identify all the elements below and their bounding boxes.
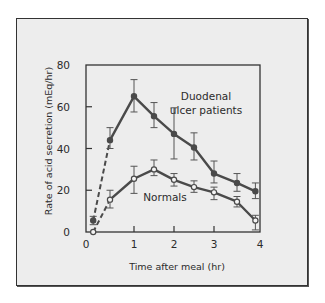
x-tick-label: 1	[131, 238, 138, 250]
y-tick-label: 20	[57, 184, 70, 196]
data-series	[90, 80, 259, 235]
open-marker	[211, 190, 216, 195]
x-tick-label: 2	[171, 238, 178, 250]
y-tick-label: 0	[63, 226, 70, 238]
y-tick-label: 80	[57, 59, 70, 71]
filled-marker	[234, 180, 239, 185]
filled-marker	[151, 114, 156, 119]
axis-ticks: 01234020406080	[57, 59, 264, 250]
open-marker	[253, 218, 258, 223]
x-tick-label: 0	[83, 238, 90, 250]
open-marker	[107, 197, 112, 202]
filled-marker	[211, 171, 216, 176]
open-marker	[131, 176, 136, 181]
open-marker	[234, 199, 239, 204]
open-marker	[171, 177, 176, 182]
filled-marker	[91, 218, 96, 223]
filled-marker	[171, 131, 176, 136]
open-marker	[191, 185, 196, 190]
filled-marker	[131, 94, 136, 99]
x-tick-label: 4	[257, 238, 264, 250]
filled-marker	[107, 138, 112, 143]
x-tick-label: 3	[211, 238, 218, 250]
open-marker	[91, 229, 96, 234]
open-marker	[151, 167, 156, 172]
x-axis-label: Time after meal (hr)	[128, 261, 225, 272]
y-tick-label: 60	[57, 101, 70, 113]
y-axis-label: Rate of acid secretion (mEq/hr)	[43, 67, 54, 215]
duodenal-ulcer-label-line2: ulcer patients	[170, 104, 242, 116]
chart: 01234020406080 Time after meal (hr) Rate…	[0, 0, 325, 303]
filled-marker	[253, 189, 258, 194]
filled-marker	[191, 145, 196, 150]
normals-label: Normals	[143, 191, 186, 203]
duodenal-ulcer-label: Duodenal	[181, 90, 231, 102]
y-tick-label: 40	[57, 143, 70, 155]
